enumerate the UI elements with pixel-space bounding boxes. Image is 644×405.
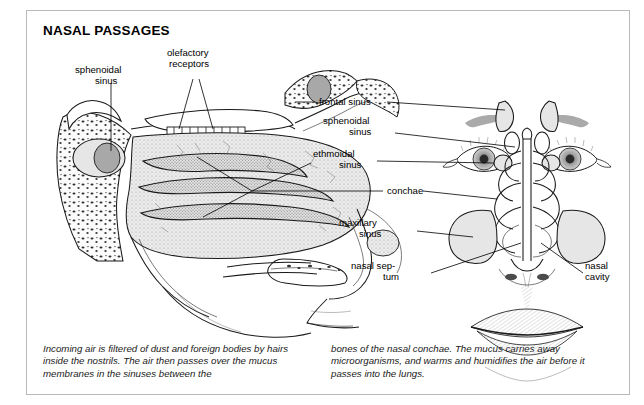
label-sphenoidal-sinus-left-line1: sphenoidal [75, 64, 121, 75]
label-sphenoidal-sinus-right-line2: sinus [349, 126, 372, 137]
label-maxillary-sinus-line1: maxillary [339, 217, 377, 228]
label-frontal-sinus: frontal sinus [319, 96, 371, 107]
nostril-right [537, 274, 549, 280]
label-maxillary-sinus-line2: sinus [359, 228, 382, 239]
sphenoidal-sinus-inner [94, 143, 120, 173]
label-sphenoidal-sinus-left-line2: sinus [95, 75, 118, 86]
leader-conchae-right [423, 191, 497, 199]
label-ethmoidal-sinus-line1: ethmoidal [313, 148, 355, 159]
label-olefactory-receptors-line2: receptors [169, 58, 209, 69]
sphenoid-bone-mass [57, 112, 131, 261]
frontal-sinus-right-front [540, 101, 558, 132]
septum-top [522, 128, 532, 139]
label-nasal-septum-line2: tum [383, 271, 399, 282]
sphenoidal-sinus-left-front [505, 132, 520, 154]
nostril-left [505, 274, 517, 280]
frontal-sinus-left-front [496, 101, 514, 132]
maxillary-sinus-right [557, 210, 605, 263]
jaw-outline [163, 287, 311, 337]
sphenoidal-sinus-right-front [535, 132, 550, 154]
caption-column-right: bones of the nasal conchae. The mucus ca… [331, 343, 616, 380]
frontal-face-view [443, 101, 611, 381]
label-nasal-septum-line1: nasal sep- [351, 260, 395, 271]
sagittal-head-section [57, 70, 402, 337]
nasal-septum-line [523, 139, 531, 261]
philtrum-shading [311, 311, 351, 313]
nose-tip-front [511, 259, 543, 271]
label-nasal-cavity-line2: cavity [585, 271, 610, 282]
leader-frontal-right [387, 102, 505, 110]
jaw-shade [177, 293, 241, 332]
label-nasal-cavity-line1: nasal [585, 260, 608, 271]
figure-frame: NASAL PASSAGES [26, 10, 630, 395]
nasal-passages-diagram: sphenoidal sinus olefactory receptors fr… [27, 11, 631, 396]
upper-lip-front [471, 309, 583, 337]
label-sphenoidal-sinus-right-line1: sphenoidal [323, 115, 369, 126]
upper-lip-profile [307, 299, 359, 328]
label-conchae: conchae [387, 185, 423, 196]
label-olefactory-receptors-line1: olefactory [167, 47, 209, 58]
label-ethmoidal-sinus-line2: sinus [339, 159, 362, 170]
caption-column-left: Incoming air is filtered of dust and for… [43, 343, 313, 380]
